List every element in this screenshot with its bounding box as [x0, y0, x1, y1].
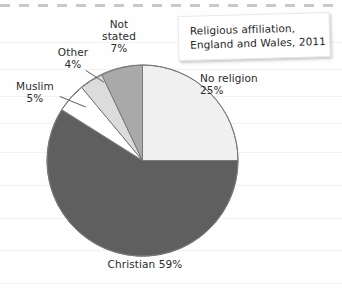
- chart-title-card: Religious affiliation, England and Wales…: [177, 12, 330, 62]
- rule-line: [0, 283, 342, 284]
- slice-label-other: Other 4%: [50, 46, 96, 70]
- slice-label-no-religion: No religion 25%: [200, 72, 296, 96]
- slice-label-christian: Christian 59%: [85, 258, 205, 270]
- perforation-dashed-line: [0, 4, 342, 7]
- slice-label-muslim: Muslim 5%: [8, 80, 62, 104]
- chart-canvas: Not stated 7% Other 4% Muslim 5% No reli…: [0, 0, 342, 290]
- slice-label-not-stated: Not stated 7%: [96, 18, 142, 55]
- chart-title-line-2: England and Wales, 2011: [190, 34, 320, 52]
